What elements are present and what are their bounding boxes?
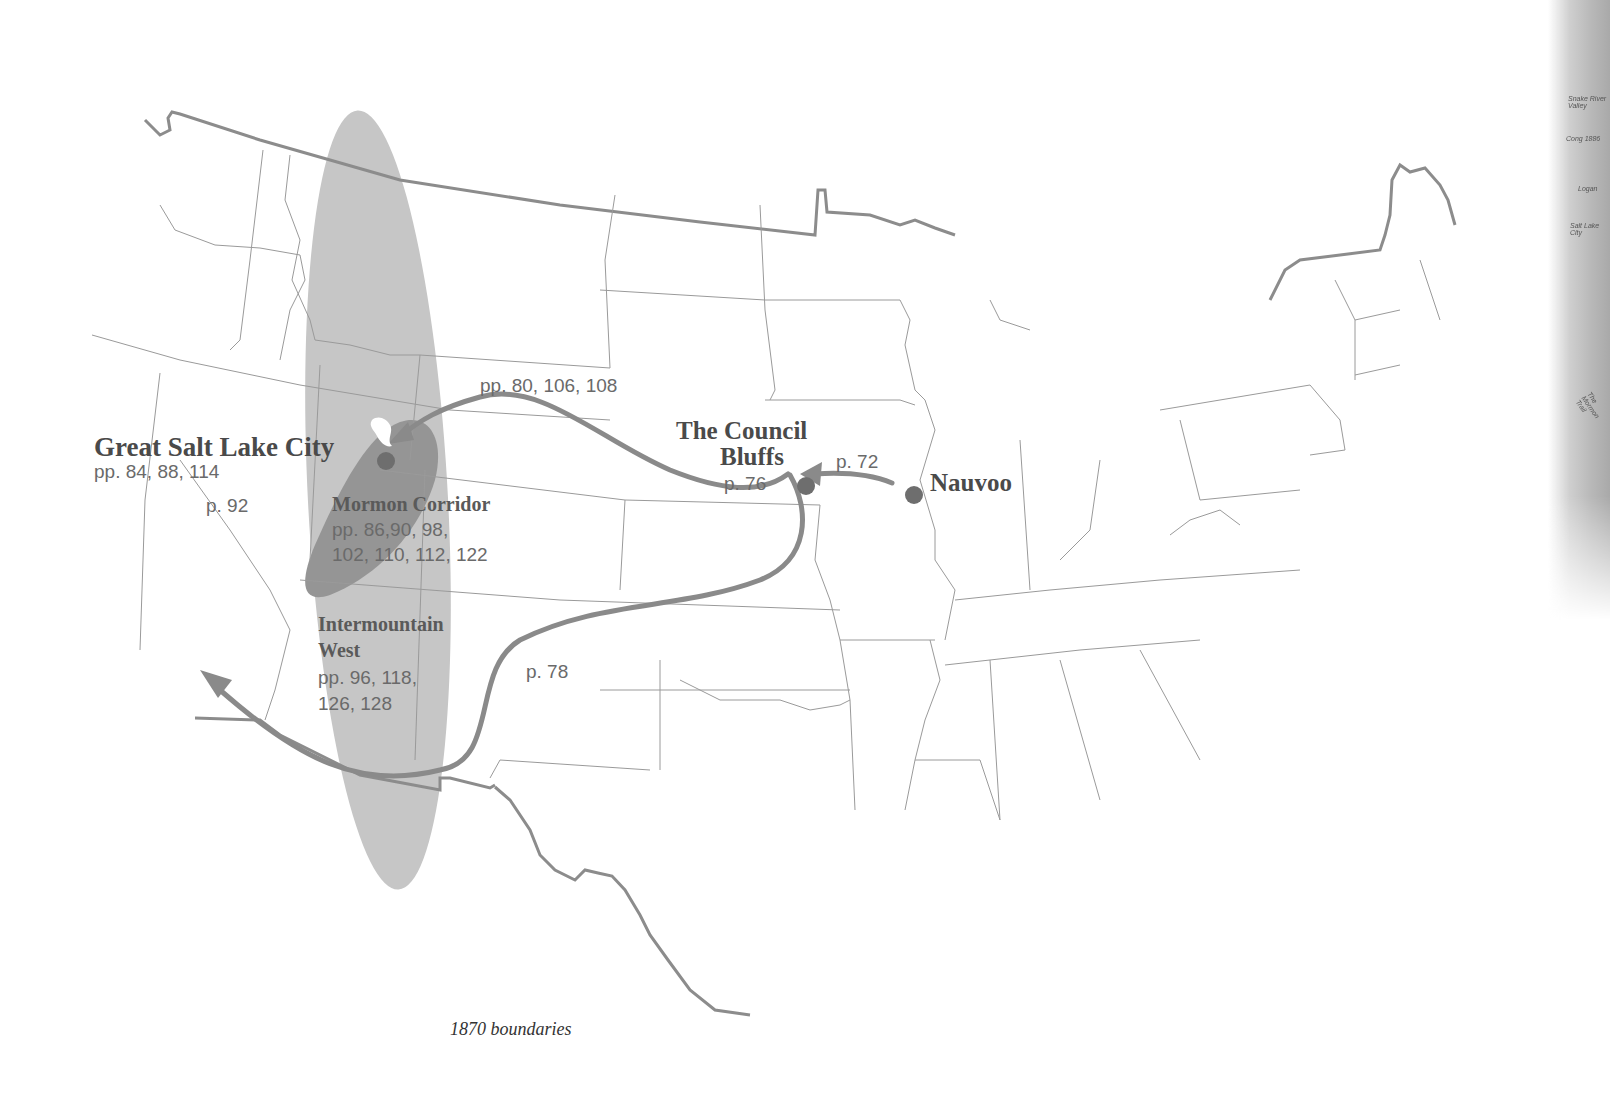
pages-council-bluffs-to-salt-lake: pp. 80, 106, 108 [480, 376, 617, 395]
pages-mormon-corridor-1: pp. 86,90, 98, [332, 520, 448, 539]
pages-mormon-corridor-2: 102, 110, 112, 122 [332, 545, 488, 564]
pages-council-bluffs: p. 76 [724, 474, 766, 493]
label-intermountain-west-1: Intermountain [318, 614, 444, 634]
strip-label: Salt Lake City [1570, 222, 1610, 236]
label-great-salt-lake-city: Great Salt Lake City [94, 434, 334, 461]
pages-nauvoo-to-council-bluffs: p. 72 [836, 452, 878, 471]
label-nauvoo: Nauvoo [930, 470, 1012, 495]
mexico-border [195, 718, 750, 1015]
adjacent-map-strip: Snake River Valley Cong 1886 Logan Salt … [1548, 0, 1610, 620]
route-nauvoo-to-council-bluffs [815, 473, 892, 483]
pages-intermountain-west-2: 126, 128 [318, 694, 392, 713]
strip-label: The Mormon Trail [1575, 391, 1610, 431]
pages-great-salt-lake-city: pp. 84, 88, 114 [94, 462, 219, 481]
marker-nauvoo [905, 486, 923, 504]
map-caption: 1870 boundaries [450, 1020, 572, 1038]
strip-label: Snake River Valley [1568, 95, 1610, 109]
label-council-bluffs-2: Bluffs [720, 444, 784, 469]
label-council-bluffs-1: The Council [676, 418, 807, 443]
route-council-bluffs-southwest [220, 475, 802, 776]
pages-council-bluffs-southwest-route: p. 78 [526, 662, 568, 681]
strip-label: Logan [1578, 185, 1597, 192]
strip-label: Cong 1886 [1566, 135, 1600, 142]
pages-intermountain-west-1: pp. 96, 118, [318, 668, 417, 687]
pages-salt-lake-southwest-route: p. 92 [206, 496, 248, 515]
label-mormon-corridor: Mormon Corridor [332, 494, 490, 514]
marker-council-bluffs [797, 477, 815, 495]
label-intermountain-west-2: West [318, 640, 360, 660]
us-1870-map [0, 0, 1610, 1118]
marker-great-salt-lake-city [377, 452, 395, 470]
